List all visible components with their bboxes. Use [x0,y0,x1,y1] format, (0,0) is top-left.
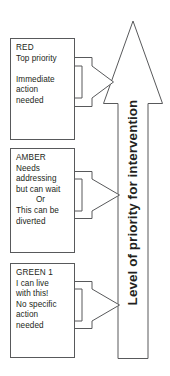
connector-arrow-amber [70,171,120,219]
connector-arrow-green [70,281,120,329]
priority-box-amber-line: Or [16,195,71,206]
priority-box-red-line: action [16,85,71,96]
priority-box-green-line: with this! [16,289,71,300]
priority-box-red-line: Immediate [16,75,71,86]
priority-box-amber-line: This can be [16,206,71,217]
priority-box-green-line: GREEN 1 [16,268,71,279]
priority-box-green: GREEN 1I can livewith this!No specificac… [10,263,75,358]
priority-box-green-line: I can live [16,279,71,290]
priority-box-amber-line: AMBER [16,153,71,164]
priority-box-red-line: needed [16,96,71,107]
priority-box-red-line: Top priority [16,54,71,65]
priority-box-green-line: needed [16,321,71,332]
priority-box-amber: AMBERNeedsaddressingbut can waitOrThis c… [10,148,75,253]
priority-box-amber-line: Needs [16,164,71,175]
priority-box-red: REDTop priorityImmediateactionneeded [10,38,75,140]
connector-arrow-red [70,57,114,107]
priority-box-amber-line: diverted [16,217,71,228]
priority-box-green-line: No specific [16,300,71,311]
priority-triage-diagram: Level of priority for intervention REDTo… [0,0,170,376]
priority-box-amber-line: addressing [16,174,71,185]
priority-box-red-line [16,64,71,75]
priority-box-red-line: RED [16,43,71,54]
priority-box-green-text: GREEN 1I can livewith this!No specificac… [16,268,71,332]
priority-box-amber-line: but can wait [16,185,71,196]
priority-box-green-line: action [16,310,71,321]
priority-box-amber-text: AMBERNeedsaddressingbut can waitOrThis c… [16,153,71,227]
priority-box-red-text: REDTop priorityImmediateactionneeded [16,43,71,107]
